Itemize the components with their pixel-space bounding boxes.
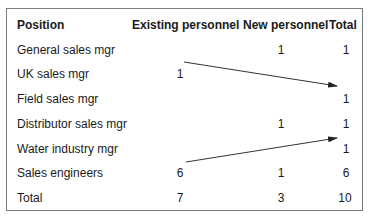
row-total: 1 [336, 142, 356, 156]
row-position: Total [17, 191, 42, 205]
row-total: 1 [336, 117, 356, 131]
row-position: UK sales mgr [17, 67, 89, 81]
row-total: 10 [333, 191, 357, 205]
row-new: 1 [271, 166, 291, 180]
row-new: 1 [271, 117, 291, 131]
row-new: 3 [271, 191, 291, 205]
row-existing: 7 [170, 191, 190, 205]
row-total: 6 [336, 166, 356, 180]
header-new-personnel: New personnel [243, 18, 328, 32]
row-position: Sales engineers [17, 166, 103, 180]
row-total: 1 [336, 43, 356, 57]
header-existing-personnel: Existing personnel [132, 18, 239, 32]
row-position: Field sales mgr [17, 92, 98, 106]
row-position: Distributor sales mgr [17, 117, 127, 131]
header-total: Total [329, 18, 357, 32]
table-frame [6, 8, 363, 211]
header-position: Position [17, 18, 64, 32]
row-total: 1 [336, 92, 356, 106]
row-new: 1 [271, 43, 291, 57]
row-existing: 6 [170, 166, 190, 180]
row-position: Water industry mgr [17, 142, 118, 156]
row-existing: 1 [170, 67, 190, 81]
row-position: General sales mgr [17, 43, 115, 57]
